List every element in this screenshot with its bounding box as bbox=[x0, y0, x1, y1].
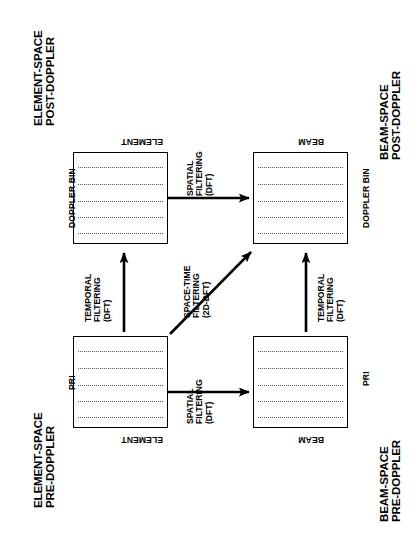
corner-label-line1: ELEMENT-SPACE bbox=[32, 412, 44, 508]
arrow-label-line3: (DFT) bbox=[336, 274, 345, 322]
axis-label-pri-br: PRI bbox=[362, 371, 371, 386]
corner-label-element-space-pre-doppler: ELEMENT-SPACE PRE-DOPPLER bbox=[32, 412, 57, 508]
corner-label-line1: BEAM-SPACE bbox=[378, 440, 390, 522]
arrow-label-line3: (DFT) bbox=[205, 379, 214, 424]
corner-label-line2: PRE-DOPPLER bbox=[390, 440, 402, 522]
cube-element-space-pre-doppler[interactable] bbox=[73, 336, 168, 428]
cube-beam-space-pre-doppler[interactable] bbox=[253, 336, 348, 428]
axis-label-element-bl: ELEMENT bbox=[121, 435, 163, 444]
corner-label-beam-space-pre-doppler: BEAM-SPACE PRE-DOPPLER bbox=[378, 440, 403, 522]
corner-label-line2: POST-DOPPLER bbox=[390, 71, 402, 160]
corner-label-element-space-post-doppler: ELEMENT-SPACE POST-DOPPLER bbox=[32, 30, 57, 126]
arrow-label-line3: (DFT) bbox=[103, 274, 112, 322]
axis-label-doppler-bin-tl: DOPPLER BIN bbox=[68, 168, 77, 228]
corner-label-line1: ELEMENT-SPACE bbox=[32, 30, 44, 126]
axis-label-beam-tr: BEAM bbox=[298, 137, 324, 146]
cube-element-space-post-doppler[interactable] bbox=[73, 152, 168, 244]
cube-beam-space-post-doppler[interactable] bbox=[253, 152, 348, 244]
arrow-label-line3: (2D-DFT) bbox=[202, 266, 211, 318]
arrow-label-space-time-filtering-diagonal: SPACE-TIME FILTERING (2D-DFT) bbox=[183, 266, 211, 318]
arrow-label-temporal-filtering-left: TEMPORAL FILTERING (DFT) bbox=[84, 274, 112, 322]
corner-label-line1: BEAM-SPACE bbox=[378, 71, 390, 160]
corner-label-line2: POST-DOPPLER bbox=[44, 30, 56, 126]
axis-label-beam-br: BEAM bbox=[298, 435, 324, 444]
axis-label-pri-bl: PRI bbox=[68, 375, 77, 390]
corner-label-beam-space-post-doppler: BEAM-SPACE POST-DOPPLER bbox=[378, 71, 403, 160]
arrow-label-spatial-filtering-bottom: SPATIAL FILTERING (DFT) bbox=[186, 379, 214, 424]
corner-label-line2: PRE-DOPPLER bbox=[44, 412, 56, 508]
arrow-label-spatial-filtering-top: SPATIAL FILTERING (DFT) bbox=[186, 151, 214, 196]
axis-label-element-tl: ELEMENT bbox=[121, 137, 163, 146]
axis-label-doppler-bin-tr: DOPPLER BIN bbox=[362, 168, 371, 228]
arrow-label-temporal-filtering-right: TEMPORAL FILTERING (DFT) bbox=[317, 274, 345, 322]
arrow-label-line3: (DFT) bbox=[205, 151, 214, 196]
